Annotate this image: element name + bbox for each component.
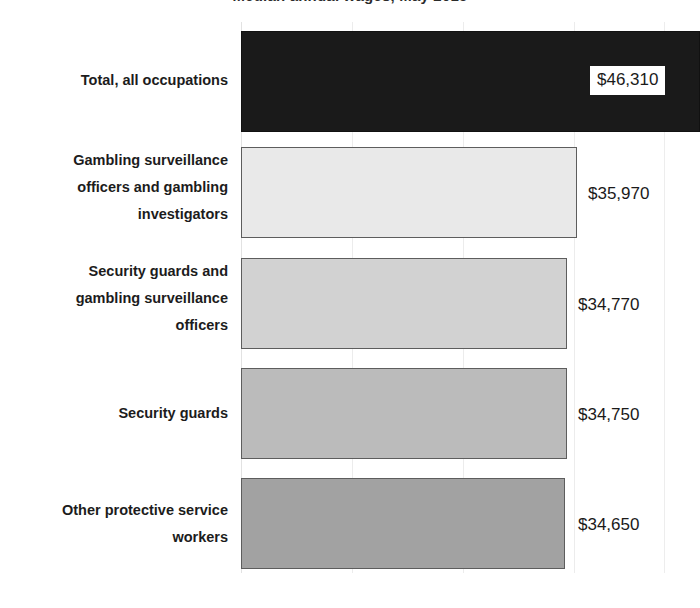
bar-value-label: $34,650	[578, 516, 639, 533]
category-label: Security guards	[0, 400, 228, 427]
bar-chart: Median annual wages, May 2015 Total, all…	[0, 0, 700, 608]
category-label-line: Security guards and	[0, 258, 228, 285]
category-label: Total, all occupations	[0, 67, 228, 94]
category-label-line: officers	[0, 312, 228, 339]
category-label: Gambling surveillance officers and gambl…	[0, 147, 228, 228]
category-label-line: Other protective service	[0, 497, 228, 524]
category-label-line: Gambling surveillance	[0, 147, 228, 174]
category-label-line: workers	[0, 524, 228, 551]
bar[interactable]	[241, 368, 567, 459]
category-label-line: investigators	[0, 201, 228, 228]
category-label-line: Security guards	[0, 400, 228, 427]
category-label-line: Total, all occupations	[0, 67, 228, 94]
bar-value-label: $46,310	[590, 66, 665, 95]
bar[interactable]	[241, 478, 565, 569]
bar-value-label: $34,750	[578, 406, 639, 423]
chart-title: Median annual wages, May 2015	[0, 0, 700, 4]
bar-value-label: $34,770	[578, 296, 639, 313]
category-label: Other protective service workers	[0, 497, 228, 551]
bar[interactable]	[241, 147, 577, 238]
category-label: Security guards and gambling surveillanc…	[0, 258, 228, 339]
bar[interactable]	[241, 258, 567, 349]
category-label-line: officers and gambling	[0, 174, 228, 201]
bar-value-label: $35,970	[588, 185, 649, 202]
category-label-line: gambling surveillance	[0, 285, 228, 312]
